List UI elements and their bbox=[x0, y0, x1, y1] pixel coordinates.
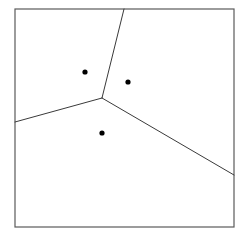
voronoi-diagram bbox=[0, 0, 246, 237]
plot-background bbox=[0, 0, 246, 237]
voronoi-canvas bbox=[0, 0, 246, 237]
site-lower bbox=[99, 130, 104, 135]
site-right bbox=[125, 79, 130, 84]
site-upper-left bbox=[82, 69, 87, 74]
